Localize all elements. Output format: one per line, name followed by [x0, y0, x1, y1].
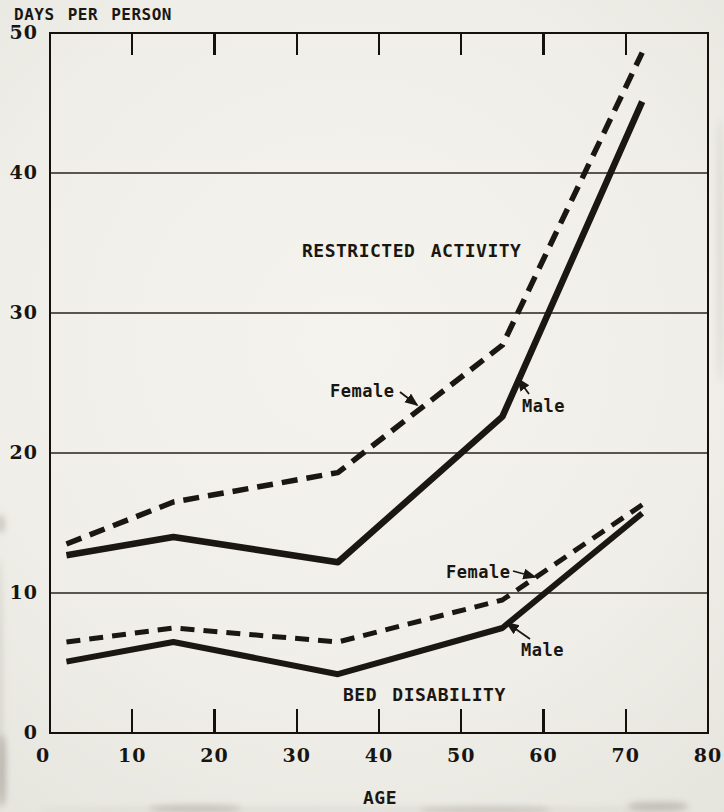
scan-smudge [0, 735, 6, 805]
bed-male-series-label: Male [521, 640, 564, 660]
restricted-male-series-label: Male [522, 396, 565, 416]
x-axis-title: AGE [359, 787, 401, 808]
scan-smudge [717, 120, 723, 380]
x-tick-label-20: 20 [195, 744, 235, 766]
x-tick-label-70: 70 [606, 744, 646, 766]
x-tick-label-30: 30 [277, 744, 317, 766]
bed-female-series-label: Female [446, 562, 510, 582]
bed-disability-group-label: BED DISABILITY [343, 684, 506, 705]
x-tick-label-60: 60 [524, 744, 564, 766]
scanned-chart-page: DAYS PER PERSON 01020304050 010203040506… [0, 0, 724, 812]
scan-smudge [0, 515, 4, 533]
x-tick-label-10: 10 [112, 744, 152, 766]
x-tick-label-40: 40 [359, 744, 399, 766]
x-tick-label-80: 80 [688, 744, 724, 766]
x-tick-label-50: 50 [441, 744, 481, 766]
scan-smudge [40, 808, 680, 812]
restricted-activity-group-label: RESTRICTED ACTIVITY [302, 240, 521, 261]
x-tick-label-0: 0 [23, 744, 63, 766]
restricted-female-series-label: Female [330, 381, 394, 401]
